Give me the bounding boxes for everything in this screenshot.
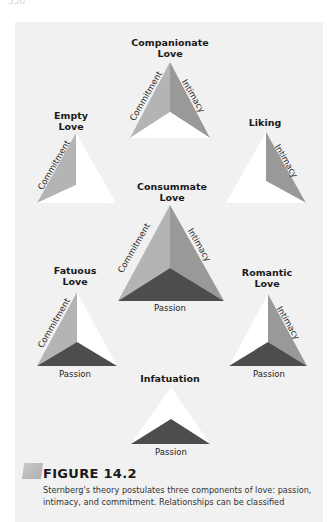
figure-tab-decoration — [22, 463, 43, 479]
side-label-passion: Passion — [155, 447, 187, 457]
figure-caption: Sternberg's theory postulates three comp… — [43, 484, 323, 508]
figure-label: FIGURE 14.2 — [43, 466, 137, 481]
